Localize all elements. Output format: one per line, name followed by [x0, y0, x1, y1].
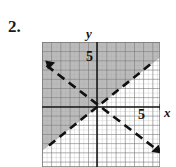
y-axis-tick-label-5: 5: [86, 50, 93, 64]
coordinate-graph: [42, 42, 160, 167]
x-axis-tick-label-5: 5: [138, 108, 145, 122]
y-axis-label: y: [86, 27, 92, 40]
x-axis-label: x: [164, 106, 171, 119]
problem-number-label: 2.: [8, 18, 21, 35]
graph-svg: [42, 42, 160, 167]
graph-exercise-screenshot: 2.: [0, 0, 176, 167]
